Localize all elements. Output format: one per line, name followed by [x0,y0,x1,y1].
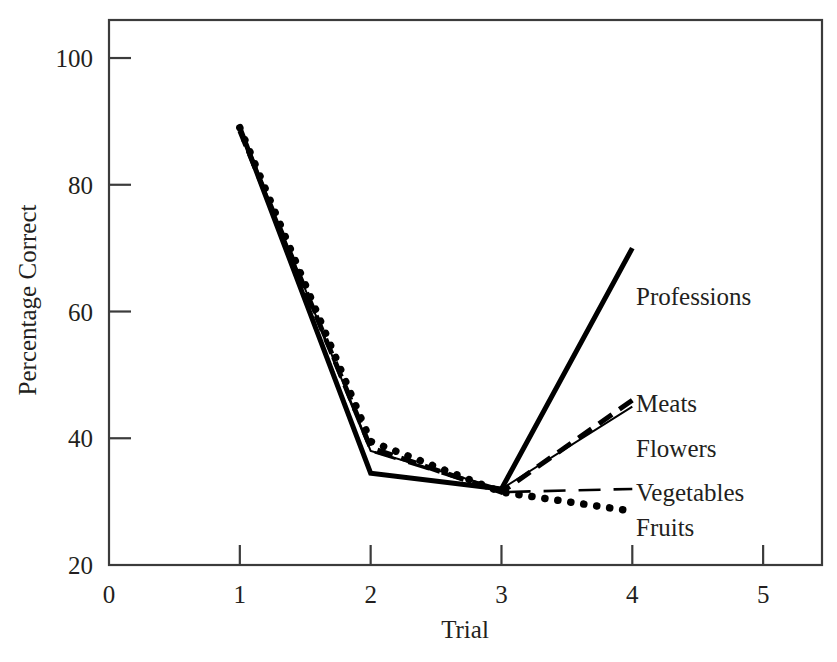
chart-figure: 20406080100 012345 Trial Percentage Corr… [0,0,837,662]
x-tick-label-5: 5 [757,581,770,608]
series-line-vegetables [240,131,632,492]
y-tick-label-40: 40 [68,425,93,452]
y-tick-label-80: 80 [68,172,93,199]
series-label-flowers: Flowers [636,435,717,462]
series-labels-group: ProfessionsMeatsFlowersVegetablesFruits [636,283,751,541]
y-axis-ticks [109,58,131,438]
series-lines-group [240,128,632,511]
x-tick-label-4: 4 [626,581,639,608]
series-label-professions: Professions [636,283,751,310]
x-axis-tick-labels: 012345 [103,581,770,608]
y-tick-label-20: 20 [68,552,93,579]
series-label-vegetables: Vegetables [636,479,744,506]
series-line-meats [240,131,632,492]
series-label-fruits: Fruits [636,514,694,541]
y-axis-title: Percentage Correct [14,205,41,396]
series-line-flowers [240,128,632,489]
y-axis-tick-labels: 20406080100 [56,45,94,579]
x-tick-label-2: 2 [364,581,377,608]
y-tick-label-60: 60 [68,299,93,326]
series-line-fruits [240,128,632,511]
line-chart: 20406080100 012345 Trial Percentage Corr… [0,0,837,662]
x-tick-label-3: 3 [495,581,508,608]
x-tick-label-1: 1 [234,581,247,608]
x-axis-title: Trial [441,616,489,643]
series-line-professions [240,128,632,489]
x-tick-label-0: 0 [103,581,116,608]
x-axis-ticks [240,545,763,565]
series-label-meats: Meats [636,390,697,417]
y-tick-label-100: 100 [56,45,94,72]
